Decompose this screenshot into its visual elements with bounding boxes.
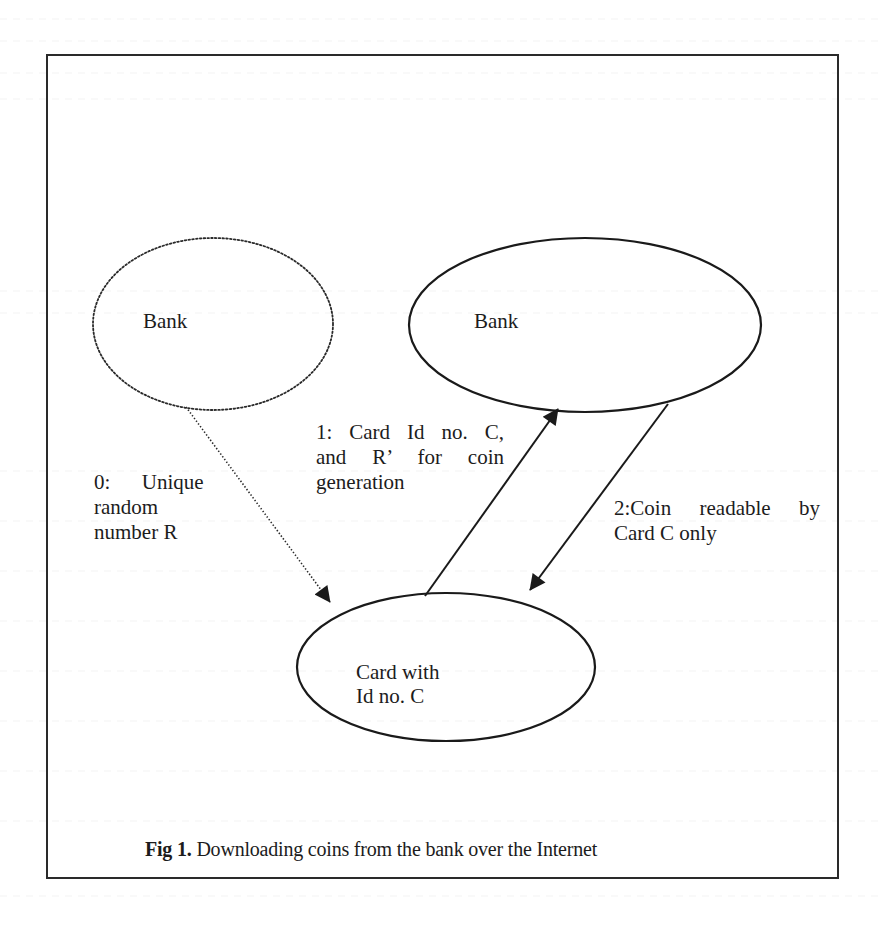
card-node	[297, 593, 595, 741]
card-label: Card with Id no. C	[356, 660, 439, 708]
card-label-line1: Card with	[356, 660, 439, 684]
figure-page: { "figure": { "caption_prefix": "Fig 1."…	[0, 0, 881, 928]
edge1-label-line1: 1: Card Id no. C,	[316, 420, 504, 445]
edge-card-id-label: 1: Card Id no. C, and R’ for coin genera…	[316, 420, 504, 495]
edge2-label-line2: Card C only	[614, 521, 820, 546]
edge0-label-line1: 0: Unique	[94, 470, 221, 495]
edge0-label-line3: number R	[94, 520, 221, 545]
edge1-label-line3: generation	[316, 470, 504, 495]
edge2-label-line1: 2:Coin readable by	[614, 496, 820, 521]
bank-server-label: Bank	[474, 309, 518, 333]
edge-coin-label: 2:Coin readable by Card C only	[614, 496, 820, 546]
edge0-label-line2: random	[94, 495, 221, 520]
bank-source-label: Bank	[143, 309, 187, 333]
figure-caption: Fig 1. Downloading coins from the bank o…	[145, 837, 597, 861]
card-label-line2: Id no. C	[356, 684, 439, 708]
edge-random-number-label: 0: Unique random number R	[94, 470, 221, 545]
bank-source-node	[93, 238, 333, 410]
figure-caption-text: Downloading coins from the bank over the…	[192, 838, 597, 860]
edge1-label-line2: and R’ for coin	[316, 445, 504, 470]
figure-caption-prefix: Fig 1.	[145, 838, 192, 860]
bank-server-node	[409, 238, 761, 412]
